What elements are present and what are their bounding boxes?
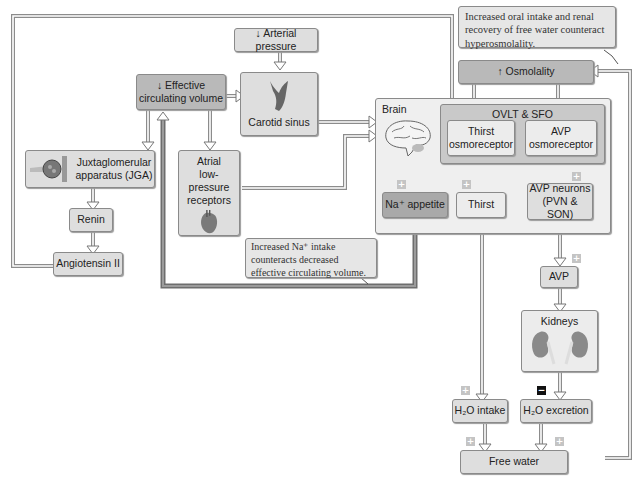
node-label: Angiotensin II (56, 257, 120, 270)
node-label: osmoreceptor (529, 138, 593, 151)
node-free-water: Free water (460, 450, 568, 474)
node-label: circulating volume (139, 92, 223, 105)
node-kidneys: Kidneys (521, 310, 598, 372)
node-label: Thirst (468, 125, 494, 138)
node-effective-circulating-volume: ↓ Effective circulating volume (136, 74, 226, 110)
node-label: H₂O intake (455, 404, 506, 417)
callout-hyperosmolality: Increased oral intake and renal recovery… (458, 6, 616, 48)
node-h2o-excretion: H₂O excretion (520, 399, 592, 423)
node-label: ↓ Effective (157, 79, 205, 92)
node-label: Kidneys (541, 315, 578, 328)
node-label: AVP (551, 125, 571, 138)
node-label: apparatus (JGA) (75, 169, 152, 182)
node-label: Renin (77, 213, 104, 226)
node-label: Na⁺ appetite (385, 198, 445, 211)
plus-sign-free-water-right: + (555, 437, 564, 446)
minus-sign-h2o-excretion: − (537, 386, 546, 395)
region-label: Brain (382, 103, 407, 116)
node-label: Juxtaglomerular (77, 156, 152, 169)
node-thirst: Thirst (456, 192, 506, 218)
node-label: Carotid sinus (248, 116, 309, 129)
node-avp: AVP (540, 266, 578, 288)
node-label: ↑ Osmolality (497, 65, 554, 78)
node-angiotensin-ii: Angiotensin II (53, 252, 123, 276)
jga-icon (30, 154, 74, 184)
node-avp-neurons: AVP neurons (PVN & SON) (527, 183, 593, 220)
plus-sign-thirst: + (462, 180, 471, 189)
node-label: ↓ Arterial pressure (235, 27, 317, 53)
brain-icon (382, 118, 434, 158)
node-label: Atrial (197, 155, 221, 168)
node-label: low-pressure (179, 168, 239, 194)
node-avp-osmoreceptor: AVP osmoreceptor (525, 120, 597, 156)
plus-sign-free-water-left: + (466, 437, 475, 446)
plus-sign-avp: + (572, 254, 581, 263)
heart-icon (194, 210, 224, 236)
node-label: receptors (187, 194, 231, 207)
node-label: osmoreceptor (449, 138, 513, 151)
carotid-sinus-icon (267, 79, 291, 113)
node-atrial-receptors: Atrial low-pressure receptors (178, 150, 240, 236)
callout-text: Increased Na⁺ intake (251, 241, 371, 254)
node-na-appetite: Na⁺ appetite (382, 192, 448, 218)
plus-sign-na-appetite: + (397, 180, 406, 189)
node-label: AVP (549, 270, 569, 283)
plus-sign-h2o-intake: + (461, 386, 470, 395)
callout-text: effective circulating volume. (251, 267, 371, 280)
node-label: AVP neurons (530, 182, 591, 195)
node-label: Thirst (468, 198, 494, 211)
callout-text: counteracts decreased (251, 254, 371, 267)
node-label: (PVN & SON) (528, 195, 592, 221)
kidneys-icon (530, 328, 590, 366)
callout-text: Increased oral intake and renal recovery… (465, 11, 604, 49)
node-renin: Renin (69, 208, 113, 232)
node-osmolality: ↑ Osmolality (458, 60, 594, 84)
node-thirst-osmoreceptor: Thirst osmoreceptor (447, 120, 515, 156)
node-label: H₂O excretion (523, 404, 588, 417)
node-jga: Juxtaglomerular apparatus (JGA) (25, 150, 155, 188)
node-arterial-pressure: ↓ Arterial pressure (234, 28, 318, 52)
callout-na-intake: Increased Na⁺ intake counteracts decreas… (245, 238, 377, 278)
node-label: Free water (489, 455, 539, 468)
plus-sign-avp-neurons: + (572, 172, 581, 181)
node-carotid-sinus: Carotid sinus (240, 72, 318, 136)
node-h2o-intake: H₂O intake (452, 399, 508, 423)
